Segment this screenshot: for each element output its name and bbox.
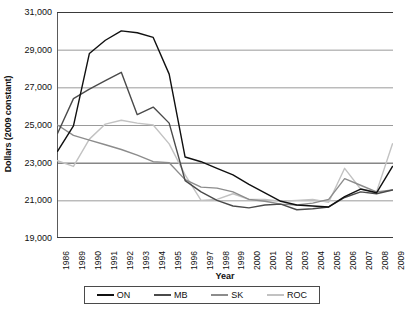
series-line-sk xyxy=(58,125,393,205)
series-line-mb xyxy=(58,72,393,209)
x-axis-tick-label: 1990 xyxy=(93,251,103,270)
x-axis-tick-label: 2005 xyxy=(332,251,342,270)
y-axis-tick-label: 25,000 xyxy=(8,120,52,130)
x-axis-tick-label: 2000 xyxy=(252,251,262,270)
x-axis-tick-label: 2003 xyxy=(300,251,310,270)
y-axis-tick-label: 19,000 xyxy=(8,233,52,243)
chart-legend: ONMBSKROC xyxy=(84,286,320,304)
x-axis-tick-label: 2009 xyxy=(396,251,406,270)
legend-label: ROC xyxy=(287,290,307,300)
x-axis-tick-label: 2002 xyxy=(284,251,294,270)
legend-item-on[interactable]: ON xyxy=(97,290,131,300)
x-axis-tick-label: 1998 xyxy=(221,251,231,270)
plot-svg xyxy=(57,12,393,238)
y-axis-tick-label: 31,000 xyxy=(8,7,52,17)
y-axis-tick-label: 21,000 xyxy=(8,195,52,205)
legend-swatch-sk-icon xyxy=(211,294,228,296)
legend-label: MB xyxy=(174,290,188,300)
x-axis-tick-label: 2006 xyxy=(348,251,358,270)
x-axis-tick-label: 2004 xyxy=(316,251,326,270)
x-axis-tick-label: 2001 xyxy=(268,251,278,270)
plot-area xyxy=(57,12,393,238)
x-axis-tick-label: 1996 xyxy=(189,251,199,270)
data-series-layer xyxy=(58,31,393,210)
series-line-on xyxy=(58,31,393,207)
legend-swatch-mb-icon xyxy=(154,294,171,296)
x-axis-tick-label: 1993 xyxy=(141,251,151,270)
y-axis-tick-label: 23,000 xyxy=(8,158,52,168)
x-axis-tick-label: 2008 xyxy=(380,251,390,270)
y-axis-tick-label: 29,000 xyxy=(8,45,52,55)
x-axis-tick-label: 1995 xyxy=(173,251,183,270)
x-axis-title: Year xyxy=(57,271,393,281)
legend-swatch-on-icon xyxy=(97,294,114,296)
x-axis-tick-label: 1991 xyxy=(109,251,119,270)
x-axis-tick-label: 1997 xyxy=(205,251,215,270)
x-axis-tick-label: 1994 xyxy=(157,251,167,270)
x-axis-tick-label: 1999 xyxy=(236,251,246,270)
legend-swatch-roc-icon xyxy=(267,294,284,296)
gridlines xyxy=(57,50,393,201)
legend-label: ON xyxy=(117,290,131,300)
x-axis-tick-label: 1989 xyxy=(77,251,87,270)
legend-item-roc[interactable]: ROC xyxy=(267,290,307,300)
legend-label: SK xyxy=(231,290,243,300)
y-axis-tick-labels: 19,00021,00023,00025,00027,00029,00031,0… xyxy=(8,0,52,314)
x-axis-tick-label: 1992 xyxy=(125,251,135,270)
legend-item-sk[interactable]: SK xyxy=(211,290,243,300)
x-axis-tick-label: 1986 xyxy=(61,251,71,270)
y-axis-tick-label: 27,000 xyxy=(8,82,52,92)
legend-item-mb[interactable]: MB xyxy=(154,290,188,300)
x-axis-tick-label: 2007 xyxy=(364,251,374,270)
